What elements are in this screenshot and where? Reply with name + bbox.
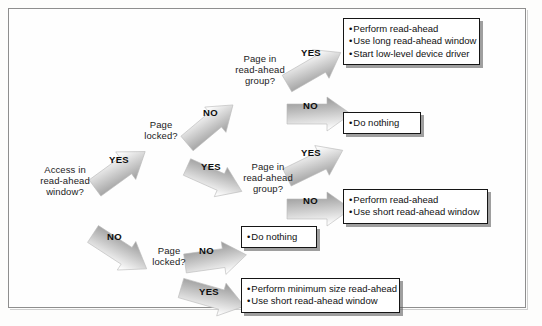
- outcome-box-long-read-ahead: Perform read-ahead Use long read-ahead w…: [343, 18, 480, 65]
- outcome-item: Start low-level device driver: [349, 48, 473, 60]
- decision-page-locked-upper: Page locked?: [135, 119, 187, 141]
- arrow-label-a9: NO: [199, 245, 214, 256]
- outcome-box-minimum-read-ahead: Perform minimum size read-ahead Use shor…: [241, 278, 400, 313]
- decision-page-in-read-ahead-group-lower: Page in read-ahead group?: [235, 161, 301, 194]
- arrow-label-a10: YES: [199, 286, 219, 297]
- page-frame: YES NO N: [8, 8, 526, 308]
- arrow-label-a3: NO: [203, 107, 218, 118]
- decision-page-in-read-ahead-group-upper: Page in read-ahead group?: [227, 53, 293, 86]
- arrow-no-group-to-donothing: [287, 97, 351, 131]
- outcome-item: Do nothing: [349, 117, 414, 129]
- outcome-item: Perform read-ahead: [349, 23, 473, 35]
- arrow-yes-locked-lower-to-minimum: [176, 272, 249, 323]
- outcome-item: Use short read-ahead window: [247, 295, 393, 307]
- decision-page-locked-lower: Page locked?: [143, 245, 195, 267]
- decision-access-in-read-ahead-window: Access in read-ahead window?: [31, 164, 99, 197]
- arrow-label-a6: NO: [303, 100, 318, 111]
- outcome-item: Perform minimum size read-ahead: [247, 283, 393, 295]
- arrow-no-group-lower-to-short: [287, 192, 351, 226]
- outcome-item: Use long read-ahead window: [349, 35, 473, 47]
- arrow-label-a2: NO: [107, 231, 122, 242]
- outcome-item: Perform read-ahead: [349, 194, 481, 206]
- outcome-item: Do nothing: [247, 231, 310, 243]
- outcome-box-do-nothing-1: Do nothing: [343, 112, 421, 134]
- arrow-label-a4: YES: [201, 161, 221, 172]
- arrow-label-a8: NO: [303, 195, 318, 206]
- arrow-label-a5: YES: [301, 47, 321, 58]
- arrow-label-a1: YES: [109, 154, 129, 165]
- flowchart-page: YES NO N: [0, 0, 542, 326]
- outcome-box-do-nothing-2: Do nothing: [241, 226, 317, 248]
- outcome-box-short-read-ahead: Perform read-ahead Use short read-ahead …: [343, 189, 488, 224]
- arrow-label-a7: YES: [301, 147, 321, 158]
- outcome-item: Use short read-ahead window: [349, 206, 481, 218]
